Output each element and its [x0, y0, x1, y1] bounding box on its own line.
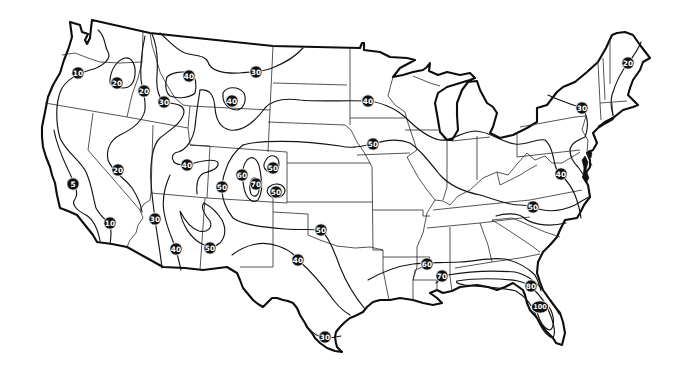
isoline-label: 60 — [236, 169, 248, 181]
isoline-label-value: 30 — [159, 98, 169, 107]
isoline-label: 50 — [527, 201, 539, 213]
isoline-label-value: 70 — [251, 180, 261, 189]
isoline-label: 80 — [525, 280, 537, 292]
isoline-label: 40 — [170, 243, 182, 255]
isoline-label: 20 — [111, 77, 123, 89]
map-container: 10 20 20 30 40 30 40 40 50 20 40 5 50 60… — [0, 0, 688, 372]
us-isoline-map: 10 20 20 30 40 30 40 40 50 20 40 5 50 60… — [0, 0, 688, 372]
isoline-label: 20 — [622, 57, 634, 69]
isoline-label-value: 100 — [533, 303, 547, 311]
isoline-label: 40 — [183, 70, 195, 82]
isoline-label-value: 40 — [293, 256, 303, 265]
isoline-label: 20 — [112, 164, 124, 176]
isoline-label: 30 — [576, 102, 588, 114]
isoline-label: 50 — [270, 186, 282, 198]
isoline-label-value: 20 — [113, 166, 123, 175]
isoline-label-value: 30 — [150, 215, 160, 224]
isoline-label: 50 — [204, 242, 216, 254]
isoline-label-value: 50 — [271, 188, 281, 197]
isoline-label: 40 — [292, 254, 304, 266]
isoline-label-value: 50 — [528, 203, 538, 212]
isoline-label: 20 — [138, 85, 150, 97]
isoline-label-value: 60 — [237, 171, 247, 180]
isoline-label-value: 70 — [437, 272, 447, 281]
isoline-label-value: 50 — [316, 226, 326, 235]
isoline-label: 70 — [436, 270, 448, 282]
isoline-label: 40 — [181, 159, 193, 171]
isoline-label-value: 30 — [577, 104, 587, 113]
isoline-label-value: 10 — [105, 219, 115, 228]
isoline-label: 50 — [267, 162, 279, 174]
isoline-label-value: 40 — [171, 245, 181, 254]
isoline-label: 40 — [555, 168, 567, 180]
us-outline — [42, 20, 650, 352]
isoline-label-value: 50 — [205, 244, 215, 253]
isoline-label-value: 10 — [73, 69, 83, 78]
isoline-label-value: 40 — [184, 72, 194, 81]
isoline-label-value: 50 — [217, 183, 227, 192]
isoline-label: 100 — [531, 301, 548, 313]
isoline-label: 30 — [250, 66, 262, 78]
isoline-label: 60 — [421, 258, 433, 270]
isoline-label-value: 20 — [139, 87, 149, 96]
isoline-label: 40 — [362, 95, 374, 107]
isoline-label: 70 — [250, 178, 262, 190]
isoline-label-value: 5 — [70, 180, 75, 189]
isoline-label: 30 — [149, 213, 161, 225]
isoline-label: 40 — [226, 95, 238, 107]
isoline-label-value: 80 — [526, 282, 536, 291]
isoline-label-value: 40 — [363, 97, 373, 106]
isoline-label-value: 50 — [368, 140, 378, 149]
isoline-label-value: 60 — [422, 260, 432, 269]
isoline-label-value: 50 — [268, 164, 278, 173]
isoline-label: 30 — [158, 96, 170, 108]
isoline-label: 50 — [367, 138, 379, 150]
isoline-label: 50 — [315, 224, 327, 236]
isoline-label: 10 — [104, 217, 116, 229]
isoline-label-value: 40 — [556, 170, 566, 179]
isoline-label-value: 40 — [227, 97, 237, 106]
isoline-label-value: 40 — [182, 161, 192, 170]
isoline-label-value: 20 — [112, 79, 122, 88]
isoline-label: 50 — [216, 181, 228, 193]
isoline-label-value: 30 — [251, 68, 261, 77]
isoline-label-value: 30 — [320, 333, 330, 342]
isoline-label: 30 — [319, 331, 331, 343]
isoline-label: 10 — [72, 67, 84, 79]
isoline-label-value: 20 — [623, 59, 633, 68]
isoline-label: 5 — [67, 178, 79, 190]
